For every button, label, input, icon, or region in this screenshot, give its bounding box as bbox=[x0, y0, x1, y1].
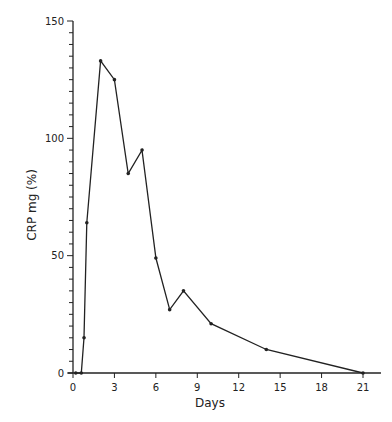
data-point bbox=[140, 148, 144, 152]
y-tick-label: 150 bbox=[45, 16, 64, 27]
plot-area bbox=[74, 59, 365, 375]
x-tick-label: 15 bbox=[274, 382, 287, 393]
y-tick-label: 50 bbox=[51, 250, 64, 261]
data-point bbox=[126, 172, 130, 176]
data-point bbox=[79, 371, 83, 375]
data-point bbox=[82, 336, 86, 340]
x-tick-label: 21 bbox=[357, 382, 370, 393]
data-point bbox=[113, 78, 117, 82]
series-line bbox=[76, 61, 363, 373]
data-point bbox=[154, 256, 158, 260]
data-point bbox=[209, 322, 213, 326]
y-axis: 050100150 bbox=[45, 16, 73, 379]
x-axis-label: Days bbox=[195, 396, 225, 410]
x-tick-label: 12 bbox=[232, 382, 245, 393]
data-point bbox=[265, 348, 269, 352]
y-tick-label: 100 bbox=[45, 133, 64, 144]
data-point bbox=[99, 59, 103, 63]
data-point bbox=[168, 308, 172, 312]
data-point bbox=[85, 221, 89, 225]
x-tick-label: 9 bbox=[194, 382, 200, 393]
y-axis-label: CRP mg (%) bbox=[25, 169, 39, 241]
x-axis: 036912151821 bbox=[68, 373, 381, 393]
data-point bbox=[361, 371, 365, 375]
y-tick-label: 0 bbox=[58, 368, 64, 379]
data-point bbox=[182, 289, 186, 293]
x-tick-label: 0 bbox=[70, 382, 76, 393]
x-tick-label: 18 bbox=[315, 382, 328, 393]
crp-line-chart: 050100150 036912151821 Days CRP mg (%) bbox=[0, 0, 392, 422]
x-tick-label: 6 bbox=[153, 382, 159, 393]
x-tick-label: 3 bbox=[111, 382, 117, 393]
data-point bbox=[74, 371, 78, 375]
